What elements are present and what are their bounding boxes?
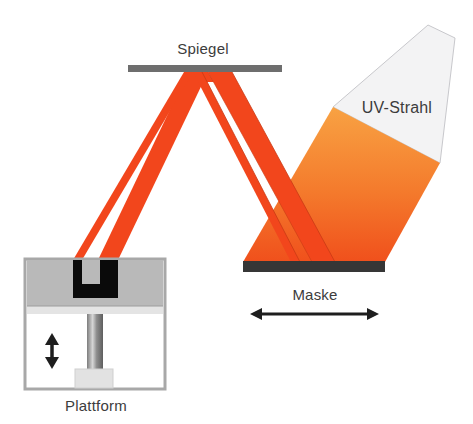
mask-label: Maske bbox=[292, 286, 337, 303]
platform-column bbox=[87, 314, 103, 370]
mask bbox=[243, 261, 385, 272]
uv-beam-label: UV-Strahl bbox=[362, 99, 432, 117]
mirror-label: Spiegel bbox=[177, 40, 228, 57]
mirror bbox=[128, 65, 282, 72]
resin-band bbox=[27, 306, 163, 314]
stereolithography-diagram bbox=[0, 0, 473, 424]
beam-thick-left-leg bbox=[98, 72, 208, 260]
resin-fill bbox=[27, 260, 163, 306]
vat bbox=[25, 259, 165, 389]
platform-base bbox=[75, 369, 113, 388]
mask-motion-arrow bbox=[250, 308, 379, 320]
beam-thin-left-leg bbox=[73, 72, 193, 260]
platform-label: Plattform bbox=[65, 397, 127, 414]
